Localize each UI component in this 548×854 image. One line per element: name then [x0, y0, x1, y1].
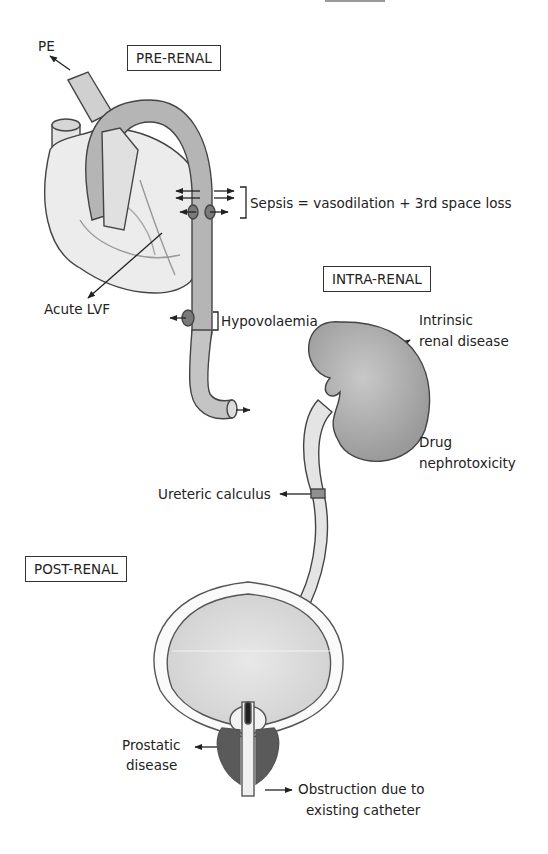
bladder — [154, 582, 343, 796]
section-intra-renal: INTRA-RENAL — [323, 266, 431, 292]
label-ureteric-calculus: Ureteric calculus — [158, 486, 271, 503]
kidney-ureter — [300, 322, 430, 604]
label-hypovolaemia: Hypovolaemia — [221, 313, 318, 330]
label-sepsis: Sepsis = vasodilation + 3rd space loss — [250, 195, 512, 212]
cropped-title — [325, 0, 385, 2]
label-intrinsic-2: renal disease — [419, 333, 509, 350]
label-pe: PE — [38, 38, 55, 55]
label-intrinsic-1: Intrinsic — [419, 312, 473, 329]
label-drug-2: nephrotoxicity — [419, 455, 516, 472]
section-pre-renal: PRE-RENAL — [127, 45, 221, 71]
label-prostatic-2: disease — [126, 757, 177, 774]
label-obstruction-2: existing catheter — [306, 802, 420, 819]
brackets — [213, 187, 246, 330]
illustration — [0, 0, 548, 854]
heart — [45, 72, 237, 419]
label-obstruction-1: Obstruction due to — [298, 781, 424, 798]
label-prostatic-1: Prostatic — [122, 737, 180, 754]
label-acute-lvf: Acute LVF — [44, 301, 110, 318]
section-post-renal: POST-RENAL — [25, 556, 127, 582]
label-drug-1: Drug — [419, 434, 452, 451]
